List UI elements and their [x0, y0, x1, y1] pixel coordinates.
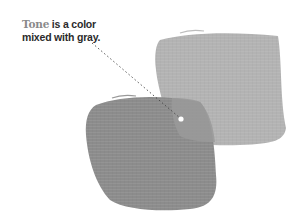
paint-swatch-illustration	[0, 0, 301, 216]
pointer-dot	[178, 116, 183, 121]
